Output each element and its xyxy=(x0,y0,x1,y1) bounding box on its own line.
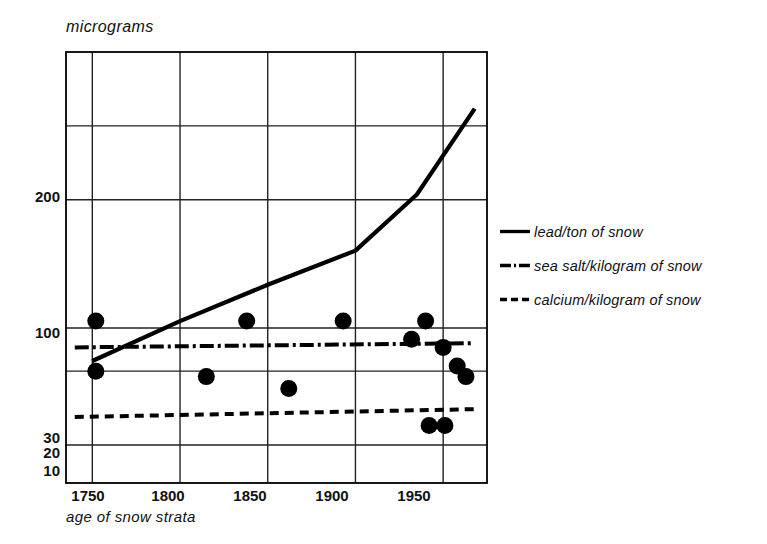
legend-swatch-solid xyxy=(500,229,530,234)
legend-label: sea salt/kilogram of snow xyxy=(534,258,702,274)
legend-label: lead/ton of snow xyxy=(534,224,643,240)
legend-item-lead: lead/ton of snow xyxy=(500,218,760,245)
legend-item-sea-salt: sea salt/kilogram of snow xyxy=(500,252,760,279)
scatter-points xyxy=(87,313,474,435)
legend-swatch-dashed xyxy=(500,297,530,302)
legend-label: calcium/kilogram of snow xyxy=(534,292,701,308)
legend-item-calcium: calcium/kilogram of snow xyxy=(500,286,760,313)
legend: lead/ton of snow sea salt/kilogram of sn… xyxy=(500,218,760,320)
chart-figure: micrograms 200 100 30 20 10 1750 1800 18… xyxy=(0,0,767,544)
legend-swatch-dash-dot xyxy=(500,263,530,268)
grid-lines xyxy=(66,52,487,483)
plot-frame xyxy=(66,52,487,483)
